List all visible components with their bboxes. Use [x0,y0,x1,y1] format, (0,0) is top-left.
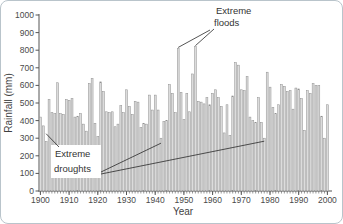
bar-1973 [249,117,251,191]
bar-1983 [278,105,280,191]
floods-pointer-1954 [195,29,214,46]
bar-1956 [200,102,202,191]
bar-1938 [149,95,151,191]
bar-1931 [128,107,130,191]
bar-1972 [246,77,248,191]
x-tick-label-1920: 1920 [88,195,107,205]
y-tick-label-100: 100 [20,168,34,178]
bar-1942 [160,138,162,191]
y-tick-label-400: 400 [20,116,34,126]
bar-1970 [240,90,242,191]
bar-1937 [146,124,148,191]
bar-1986 [286,92,288,191]
bar-1943 [163,121,165,191]
bar-1950 [183,120,185,191]
bar-1960 [212,93,214,191]
bar-1997 [318,85,320,191]
bar-1961 [215,90,217,191]
bar-1965 [226,105,228,191]
bar-1929 [123,113,125,191]
bar-1935 [140,128,142,191]
bar-1927 [117,124,119,191]
bar-1994 [309,93,311,191]
bar-1999 [324,138,326,191]
extreme-floods-label-line2: floods [214,17,240,28]
floods-pointer-1948 [178,30,210,47]
x-tick-label-1980: 1980 [261,195,280,205]
x-tick-label-1940: 1940 [146,195,165,205]
y-axis-title: Rainfall (mm) [3,73,14,132]
bar-1969 [238,65,240,191]
y-tick-label-300: 300 [20,133,34,143]
extreme-droughts-label-line2: droughts [54,163,91,174]
x-tick-label-1950: 1950 [174,195,193,205]
bar-1951 [186,93,188,191]
y-tick-label-500: 500 [20,98,34,108]
x-tick-label-2000: 2000 [318,195,337,205]
bar-1959 [209,105,211,191]
bar-1962 [217,98,219,191]
bar-1953 [192,74,194,191]
bar-1923 [106,112,108,191]
y-tick-label-1000: 1000 [15,10,34,20]
bar-1975 [255,122,257,191]
bar-1964 [223,133,225,191]
bar-1981 [272,107,274,191]
bar-1903 [48,99,50,191]
rainfall-chart-card: 0100200300400500600700800900100019001910… [0,0,343,224]
bar-1985 [283,86,285,191]
bar-1971 [243,91,245,191]
bar-1982 [275,114,277,191]
y-tick-label-200: 200 [20,151,34,161]
bar-1968 [235,63,237,191]
x-axis-title: Year [173,206,194,217]
x-tick-label-1960: 1960 [203,195,222,205]
bar-1958 [206,98,208,191]
bar-1957 [203,104,205,191]
bar-1939 [151,110,153,191]
bar-1993 [306,91,308,191]
bar-1955 [197,101,199,191]
x-tick-label-1990: 1990 [289,195,308,205]
bar-1992 [304,130,306,191]
bar-1987 [289,91,291,191]
bar-1966 [229,136,231,191]
bar-1934 [137,102,139,191]
bar-1978 [263,138,265,191]
bar-1980 [269,87,271,191]
bar-1946 [172,93,174,191]
bar-1940 [154,95,156,191]
bar-1901 [42,126,44,191]
bar-1926 [114,127,116,191]
bar-1952 [189,112,191,191]
bar-1963 [220,107,222,191]
extreme-droughts-label-line1: Extreme [55,148,90,159]
bar-1979 [266,72,268,191]
extreme-floods-label-line1: Extreme [216,5,251,16]
bar-1933 [134,101,136,191]
bar-1977 [260,122,262,191]
rainfall-bar-chart: 0100200300400500600700800900100019001910… [1,1,343,224]
bar-1944 [166,121,168,191]
bar-1984 [281,85,283,191]
y-tick-label-600: 600 [20,80,34,90]
y-tick-label-700: 700 [20,63,34,73]
bar-1941 [157,110,159,191]
bar-1922 [103,92,105,191]
bar-1988 [292,109,294,191]
bar-1932 [131,114,133,191]
bar-1989 [295,88,297,191]
bar-1925 [111,112,113,191]
bar-1924 [108,113,110,191]
bar-1991 [301,99,303,191]
bar-1954 [194,47,196,191]
bar-2000 [327,105,329,191]
bar-1945 [169,85,171,191]
y-tick-label-800: 800 [20,45,34,55]
bar-1936 [143,123,145,191]
bar-1947 [174,113,176,191]
x-tick-label-1930: 1930 [117,195,136,205]
bar-1995 [312,84,314,191]
x-tick-label-1900: 1900 [31,195,50,205]
bar-1976 [258,98,260,191]
